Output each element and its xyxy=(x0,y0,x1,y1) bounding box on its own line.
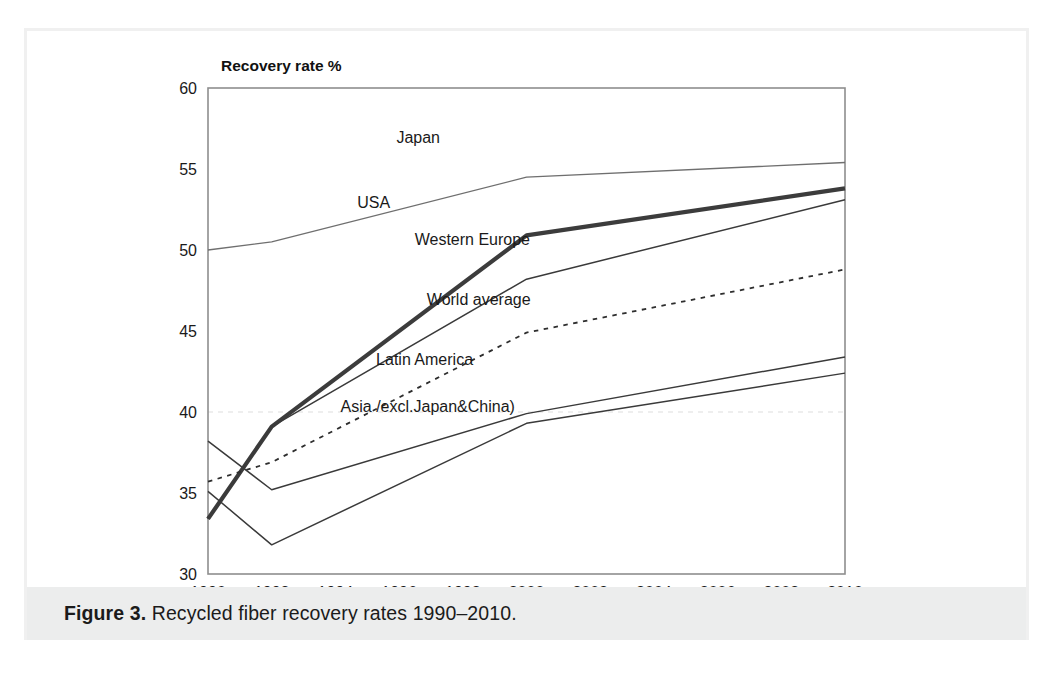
series-label-western-europe: Western Europe xyxy=(415,231,530,248)
series-label-japan: Japan xyxy=(396,129,440,146)
series-label-usa: USA xyxy=(357,194,390,211)
plot-frame xyxy=(208,88,845,574)
figure-caption: Figure 3. Recycled fiber recovery rates … xyxy=(27,602,517,625)
y-tick-label-60: 60 xyxy=(179,80,197,97)
y-tick-label-40: 40 xyxy=(179,404,197,421)
y-tick-label-55: 55 xyxy=(179,161,197,178)
figure-caption-label: Figure 3. xyxy=(64,602,146,624)
figure-root: Recovery rate %3035404550556019901992199… xyxy=(0,0,1057,691)
y-tick-label-45: 45 xyxy=(179,323,197,340)
y-tick-label-50: 50 xyxy=(179,242,197,259)
y-tick-label-35: 35 xyxy=(179,485,197,502)
figure-caption-body: Recycled fiber recovery rates 1990–2010. xyxy=(152,602,517,624)
chart-plate: Recovery rate %3035404550556019901992199… xyxy=(27,31,1026,587)
line-chart: Recovery rate %3035404550556019901992199… xyxy=(27,31,1026,587)
figure-caption-band: Figure 3. Recycled fiber recovery rates … xyxy=(27,587,1026,640)
series-label-asia-excl-japan-china: Asia /excl.Japan&China) xyxy=(341,398,515,415)
series-line-asia-excl-japan-china xyxy=(208,373,845,545)
y-axis-title: Recovery rate % xyxy=(221,57,342,74)
y-tick-label-30: 30 xyxy=(179,566,197,583)
series-label-world-average: World average xyxy=(427,291,531,308)
series-label-latin-america: Latin America xyxy=(376,351,473,368)
